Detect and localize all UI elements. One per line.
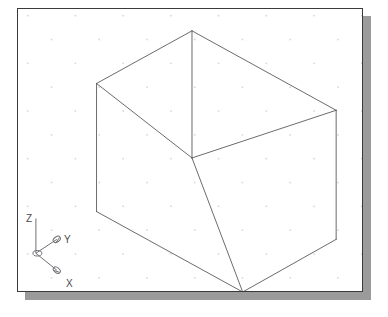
isometric-box-wireframe[interactable]: [18, 9, 362, 291]
box-edge-top-face-back-left[interactable]: [97, 31, 192, 84]
axis-label-y: Y: [64, 235, 71, 245]
box-edge-vertical-front-edge[interactable]: [192, 158, 243, 291]
box-edge-bottom-front-right[interactable]: [243, 239, 336, 291]
axis-label-z: Z: [26, 214, 32, 224]
box-edge-top-face-front-right[interactable]: [192, 110, 336, 158]
box-edge-top-face-back-right[interactable]: [192, 31, 336, 110]
box-edge-bottom-front-left[interactable]: [97, 212, 243, 291]
window-shadow-bottom: [25, 292, 371, 300]
window-shadow-right: [363, 16, 371, 300]
box-edge-top-face-front-left[interactable]: [97, 83, 192, 157]
axis-label-x: X: [66, 279, 73, 289]
drawing-window[interactable]: Z Y X: [17, 8, 363, 292]
cad-viewport-root: Z Y X: [0, 0, 388, 317]
